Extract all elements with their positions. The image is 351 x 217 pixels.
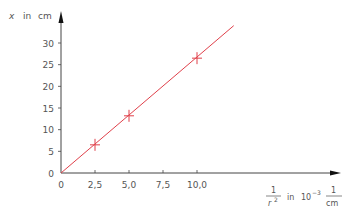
y-tick-label: 25 — [43, 60, 54, 70]
x-tick-label: 5,0 — [122, 180, 137, 190]
x-axis-arrow-icon — [330, 171, 341, 176]
y-tick-label: 0 — [48, 169, 54, 179]
x-tick-label: 10,0 — [187, 180, 207, 190]
y-tick-label: 20 — [43, 82, 55, 92]
x-axis-label-unit-num: 1 — [331, 186, 336, 195]
y-tick-label: 10 — [43, 125, 55, 135]
axes — [59, 11, 342, 176]
y-axis-label-unit: cm — [38, 11, 52, 21]
y-axis-label-var: x — [8, 11, 15, 21]
x-tick-label: 7,5 — [156, 180, 170, 190]
y-axis-label-in: in — [23, 11, 31, 21]
y-tick-label: 5 — [48, 147, 54, 157]
x-axis-label-frac-den: r — [268, 199, 272, 208]
chart: 02,55,07,510,0051015202530 x in cm 1 r 2… — [0, 0, 351, 217]
x-tick-label: 0 — [58, 180, 64, 190]
axis-labels: x in cm 1 r 2 in 10 −3 1 cm — [8, 11, 342, 208]
x-axis-label-frac-den-exp: 2 — [274, 196, 278, 203]
y-axis-arrow-icon — [59, 11, 64, 23]
series — [61, 26, 234, 173]
x-axis-label-in: in — [287, 193, 294, 202]
x-axis-label-unit-den: cm — [326, 199, 338, 208]
fit-line — [61, 26, 234, 173]
chart-canvas: 02,55,07,510,0051015202530 x in cm 1 r 2… — [0, 0, 351, 217]
x-axis-label-power-exp: −3 — [312, 189, 321, 196]
x-tick-label: 2,5 — [88, 180, 102, 190]
x-axis-label-power-base: 10 — [301, 193, 311, 202]
y-tick-label: 30 — [43, 39, 55, 49]
y-tick-label: 15 — [43, 104, 54, 114]
x-axis-label-frac-num: 1 — [271, 186, 276, 195]
